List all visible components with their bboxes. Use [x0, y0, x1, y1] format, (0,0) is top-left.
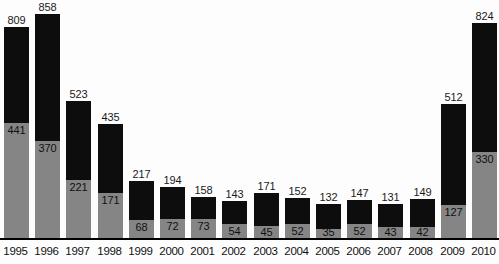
- bar-segment-upper: [129, 181, 154, 220]
- bar-total-label: 194: [164, 174, 182, 186]
- bar-segment-upper: [254, 193, 279, 226]
- bar-total-label: 147: [351, 187, 369, 199]
- bar-inner-label: 441: [8, 124, 26, 136]
- bar-segment-upper: [160, 187, 185, 219]
- bar-inner-label: 54: [229, 225, 241, 237]
- x-tick-label-1995: 1995: [0, 244, 31, 258]
- bar-stack: [98, 124, 123, 238]
- bar-total-label: 523: [70, 88, 88, 100]
- x-tick-label-2000: 2000: [156, 244, 187, 258]
- bar-inner-label: 42: [417, 226, 429, 238]
- bar-segment-upper: [378, 204, 403, 227]
- bar-2008[interactable]: 14942: [410, 199, 435, 238]
- bar-segment-upper: [285, 198, 310, 224]
- bar-2007[interactable]: 13143: [378, 204, 403, 238]
- x-tick-label-1997: 1997: [62, 244, 93, 258]
- bar-2004[interactable]: 15252: [285, 198, 310, 238]
- x-tick-label-2010: 2010: [468, 244, 499, 258]
- bar-total-label: 171: [258, 180, 276, 192]
- bar-total-label: 809: [8, 14, 26, 26]
- x-axis-line: [0, 238, 499, 240]
- bar-inner-label: 73: [198, 220, 210, 232]
- plot-area: 8094418583705232214351712176819472158731…: [0, 0, 499, 239]
- bar-inner-label: 45: [261, 226, 273, 238]
- bar-inner-label: 171: [102, 194, 120, 206]
- bar-inner-label: 35: [323, 226, 335, 238]
- x-tick-label-2003: 2003: [250, 244, 281, 258]
- bar-total-label: 158: [195, 184, 213, 196]
- bar-2006[interactable]: 14752: [347, 200, 372, 238]
- bar-1998[interactable]: 435171: [98, 124, 123, 238]
- bar-inner-label: 52: [354, 225, 366, 237]
- bar-segment-upper: [35, 14, 60, 141]
- x-tick-label-2007: 2007: [374, 244, 405, 258]
- x-tick-label-2002: 2002: [218, 244, 249, 258]
- bar-total-label: 512: [445, 91, 463, 103]
- x-tick-label-2008: 2008: [405, 244, 436, 258]
- bar-segment-upper: [472, 23, 497, 152]
- x-tick-label-2005: 2005: [312, 244, 343, 258]
- bar-total-label: 435: [102, 111, 120, 123]
- bar-segment-upper: [222, 201, 247, 224]
- bar-2005[interactable]: 13235: [316, 204, 341, 238]
- bar-2003[interactable]: 17145: [254, 193, 279, 238]
- bar-inner-label: 221: [70, 181, 88, 193]
- bar-stack: [66, 101, 91, 238]
- x-tick-label-2009: 2009: [437, 244, 468, 258]
- x-tick-label-2004: 2004: [281, 244, 312, 258]
- bar-total-label: 824: [476, 10, 494, 22]
- bar-segment-upper: [441, 104, 466, 205]
- x-axis-tick-labels: 1995199619971998199920002001200220032004…: [0, 242, 499, 264]
- bar-2009[interactable]: 512127: [441, 104, 466, 238]
- bar-segment-upper: [347, 200, 372, 224]
- bar-inner-label: 330: [476, 153, 494, 165]
- bar-2002[interactable]: 14354: [222, 201, 247, 238]
- x-tick-label-2006: 2006: [343, 244, 374, 258]
- bar-segment-upper: [66, 101, 91, 180]
- bar-inner-label: 370: [39, 142, 57, 154]
- bar-inner-label: 43: [385, 226, 397, 238]
- bar-segment-upper: [410, 199, 435, 227]
- bar-chart: 8094418583705232214351712176819472158731…: [0, 0, 499, 264]
- x-tick-label-1998: 1998: [94, 244, 125, 258]
- bar-1999[interactable]: 21768: [129, 181, 154, 238]
- x-tick-label-1999: 1999: [125, 244, 156, 258]
- bar-inner-label: 127: [445, 206, 463, 218]
- bar-stack: [35, 14, 60, 238]
- bar-2000[interactable]: 19472: [160, 187, 185, 238]
- bar-segment-lower: [35, 141, 60, 238]
- bar-total-label: 152: [289, 185, 307, 197]
- bar-total-label: 149: [414, 186, 432, 198]
- bar-total-label: 143: [226, 188, 244, 200]
- bar-total-label: 858: [39, 1, 57, 13]
- bar-inner-label: 52: [292, 225, 304, 237]
- bar-inner-label: 68: [136, 221, 148, 233]
- bar-2001[interactable]: 15873: [191, 197, 216, 238]
- x-tick-label-1996: 1996: [31, 244, 62, 258]
- bar-segment-lower: [4, 123, 29, 238]
- bar-1996[interactable]: 858370: [35, 14, 60, 238]
- x-tick-label-2001: 2001: [187, 244, 218, 258]
- bar-2010[interactable]: 824330: [472, 23, 497, 238]
- bar-inner-label: 72: [167, 220, 179, 232]
- bar-total-label: 131: [382, 191, 400, 203]
- bar-1997[interactable]: 523221: [66, 101, 91, 238]
- bar-total-label: 132: [320, 191, 338, 203]
- bar-total-label: 217: [133, 168, 151, 180]
- bar-1995[interactable]: 809441: [4, 27, 29, 238]
- bar-segment-upper: [98, 124, 123, 193]
- bar-stack: [472, 23, 497, 238]
- bar-segment-upper: [4, 27, 29, 123]
- bar-segment-upper: [191, 197, 216, 219]
